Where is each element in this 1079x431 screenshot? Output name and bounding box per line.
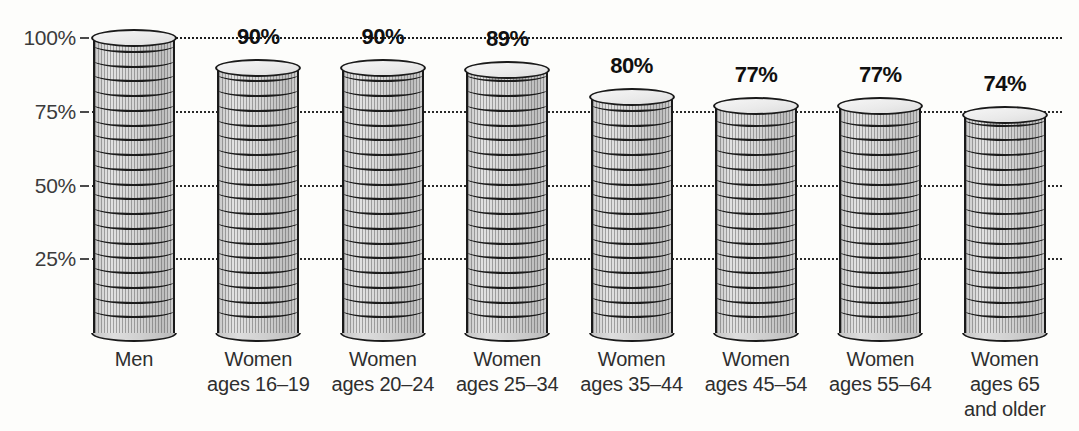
cylinder-top-ellipse — [340, 59, 426, 77]
cylinder-top-ellipse — [215, 59, 301, 77]
cylinder-band — [715, 126, 797, 141]
cylinder-band — [217, 112, 299, 127]
cylinder-band — [839, 244, 921, 259]
cylinder-band — [217, 156, 299, 171]
cylinder-band — [93, 82, 175, 97]
cylinder-bands — [964, 115, 1046, 333]
cylinder-band — [591, 200, 673, 215]
category-label-line1: Women — [580, 347, 683, 372]
cylinder-band — [839, 274, 921, 289]
cylinder-band — [217, 274, 299, 289]
cylinder-band — [342, 82, 424, 97]
cylinder-band — [964, 289, 1046, 304]
cylinder-bands — [591, 97, 673, 333]
cylinder-band — [342, 244, 424, 259]
cylinder-band — [93, 112, 175, 127]
cylinder-band — [964, 126, 1046, 141]
bar-cylinder — [466, 70, 548, 333]
bar-value-label: 80% — [610, 53, 653, 79]
cylinder-band — [217, 141, 299, 156]
cylinder-bands — [342, 68, 424, 334]
cylinder-band — [93, 53, 175, 68]
cylinder-band — [964, 259, 1046, 274]
cylinder-band — [217, 126, 299, 141]
category-label-line3: and older — [964, 397, 1046, 422]
cylinder-band — [217, 185, 299, 200]
cylinder-band — [342, 303, 424, 318]
cylinder-band — [342, 185, 424, 200]
cylinder-band — [93, 156, 175, 171]
cylinder-band — [342, 215, 424, 230]
cylinder-band — [93, 303, 175, 318]
cylinder-band — [342, 230, 424, 245]
cylinder-band — [466, 185, 548, 200]
cylinder-band — [715, 289, 797, 304]
cylinder-band — [715, 171, 797, 186]
cylinder-band — [342, 274, 424, 289]
cylinder-band — [591, 244, 673, 259]
bars-layer: Men90%Womenages 16–1990%Womenages 20–248… — [0, 0, 1079, 431]
cylinder-body — [342, 68, 424, 334]
cylinder-band — [93, 289, 175, 304]
cylinder-band — [93, 259, 175, 274]
bar-cylinder — [715, 106, 797, 333]
cylinder-band — [342, 126, 424, 141]
bar-value-label: 89% — [486, 26, 529, 52]
cylinder-band — [591, 141, 673, 156]
cylinder-band — [715, 259, 797, 274]
category-label: Men — [115, 347, 153, 372]
bar-value-label: 90% — [362, 24, 405, 50]
cylinder-bands — [217, 68, 299, 334]
cylinder-band — [466, 303, 548, 318]
cylinder-body — [964, 115, 1046, 333]
cylinder-band — [93, 171, 175, 186]
cylinder-band — [93, 185, 175, 200]
cylinder-band — [342, 112, 424, 127]
cylinder-band — [715, 274, 797, 289]
category-label: Womenages 35–44 — [580, 347, 683, 397]
cylinder-band — [466, 215, 548, 230]
cylinder-band — [217, 289, 299, 304]
category-label-line1: Women — [207, 347, 310, 372]
bar-value-label: 77% — [735, 62, 778, 88]
cylinder-band — [217, 215, 299, 230]
cylinder-top-ellipse — [91, 29, 177, 47]
cylinder-band — [591, 215, 673, 230]
cylinder-band — [715, 141, 797, 156]
cylinder-band — [964, 200, 1046, 215]
cylinder-band — [466, 289, 548, 304]
category-label-line2: ages 20–24 — [332, 372, 435, 397]
category-label: Womenages 65and older — [964, 347, 1046, 422]
cylinder-band — [715, 185, 797, 200]
cylinder-band — [466, 97, 548, 112]
cylinder-band — [839, 200, 921, 215]
cylinder-top-ellipse — [962, 106, 1048, 124]
cylinder-band — [715, 230, 797, 245]
cylinder-band — [217, 230, 299, 245]
cylinder-band — [93, 215, 175, 230]
cylinder-band — [715, 200, 797, 215]
cylinder-band — [93, 200, 175, 215]
category-label-line1: Women — [829, 347, 932, 372]
category-label-line2: ages 35–44 — [580, 372, 683, 397]
cylinder-band — [964, 230, 1046, 245]
category-label-line1: Women — [964, 347, 1046, 372]
category-label: Womenages 45–54 — [705, 347, 808, 397]
cylinder-body — [466, 70, 548, 333]
category-label-line1: Women — [332, 347, 435, 372]
cylinder-band — [964, 274, 1046, 289]
cylinder-band — [839, 141, 921, 156]
category-label-line1: Men — [115, 347, 153, 372]
cylinder-band — [591, 126, 673, 141]
cylinder-body — [715, 106, 797, 333]
cylinder-band — [93, 126, 175, 141]
bar-value-label: 90% — [237, 24, 280, 50]
cylinder-band — [591, 230, 673, 245]
cylinder-band — [466, 259, 548, 274]
cylinder-band — [342, 289, 424, 304]
cylinder-band — [466, 112, 548, 127]
cylinder-band — [466, 274, 548, 289]
cylinder-band — [466, 244, 548, 259]
cylinder-band — [93, 97, 175, 112]
cylinder-band — [715, 244, 797, 259]
